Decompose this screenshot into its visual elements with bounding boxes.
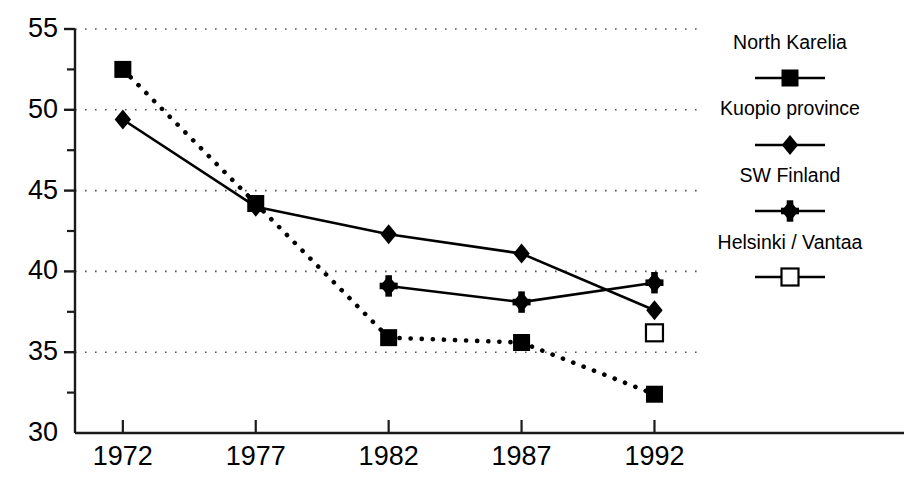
xtick-label-1982: 1982 bbox=[329, 443, 449, 470]
xtick-label-1977: 1977 bbox=[196, 443, 316, 470]
series-marker-kuopio-province-1992 bbox=[646, 300, 662, 320]
series-marker-sw-finland-1992 bbox=[645, 272, 663, 293]
legend-label-north-karelia: North Karelia bbox=[678, 33, 902, 53]
ytick-label-50: 50 bbox=[2, 96, 58, 123]
ytick-label-55: 55 bbox=[2, 15, 58, 42]
legend-sample-marker-north-karelia bbox=[782, 70, 799, 87]
series-marker-north-karelia-1992 bbox=[646, 386, 663, 403]
axis-ticks bbox=[64, 29, 654, 433]
legend-label-kuopio-province: Kuopio province bbox=[678, 99, 902, 119]
series-marker-kuopio-province-1987 bbox=[513, 244, 529, 264]
ytick-label-30: 30 bbox=[2, 419, 58, 446]
series-marker-kuopio-province-1972 bbox=[115, 109, 131, 129]
xtick-label-1987: 1987 bbox=[462, 443, 582, 470]
xtick-label-1972: 1972 bbox=[63, 443, 183, 470]
series-marker-sw-finland-1982 bbox=[380, 275, 398, 296]
legend-sample-marker-sw-finland bbox=[781, 200, 799, 221]
series-marker-north-karelia-1972 bbox=[114, 61, 131, 78]
legend-sample-marker-kuopio-province bbox=[782, 135, 798, 155]
legend-sample-marker-helsinki-vantaa bbox=[782, 269, 799, 286]
ytick-label-35: 35 bbox=[2, 338, 58, 365]
ytick-label-40: 40 bbox=[2, 257, 58, 284]
legend-label-helsinki-vantaa: Helsinki / Vantaa bbox=[678, 233, 902, 253]
ytick-label-45: 45 bbox=[2, 177, 58, 204]
gridlines bbox=[75, 29, 697, 352]
series-marker-sw-finland-1987 bbox=[513, 291, 531, 312]
series-markers bbox=[114, 61, 663, 403]
legend-label-sw-finland: SW Finland bbox=[678, 166, 902, 186]
series-marker-north-karelia-1982 bbox=[380, 329, 397, 346]
series-marker-helsinki-vantaa-1992 bbox=[646, 324, 663, 341]
xtick-label-1992: 1992 bbox=[594, 443, 714, 470]
series-marker-north-karelia-1987 bbox=[513, 334, 530, 351]
chart-figure: 55 50 45 40 35 30 1972 1977 1982 1987 19… bbox=[0, 0, 904, 485]
series-marker-kuopio-province-1982 bbox=[380, 224, 396, 244]
